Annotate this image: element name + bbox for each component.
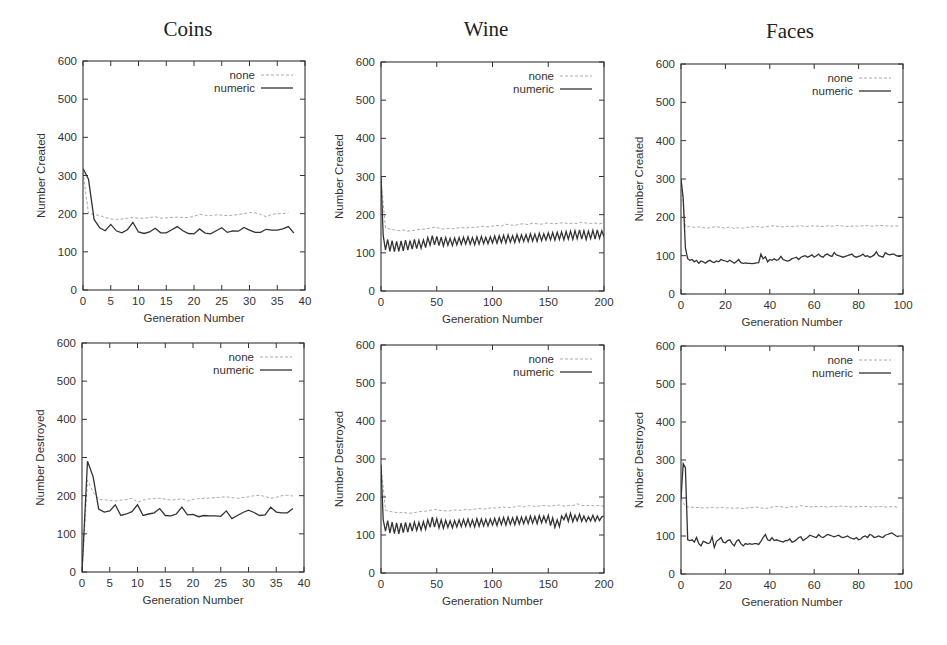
y-tick-label: 0: [369, 285, 375, 297]
x-axis-label: Generation Number: [144, 312, 245, 324]
y-tick-label: 200: [656, 492, 675, 504]
figure: Coins Wine Faces 01002003004005006000510…: [0, 0, 947, 645]
y-tick-label: 600: [57, 337, 76, 349]
x-tick-label: 0: [678, 579, 684, 591]
y-tick-label: 200: [356, 209, 375, 221]
y-tick-label: 200: [57, 490, 76, 502]
x-axis-label: Generation Number: [143, 594, 244, 606]
plot-frame: [381, 345, 604, 573]
y-tick-label: 500: [58, 93, 77, 105]
x-tick-label: 20: [719, 579, 732, 591]
y-tick-label: 400: [656, 416, 675, 428]
legend-label-numeric: numeric: [513, 366, 554, 378]
series-numeric: [381, 465, 604, 534]
x-axis-label: Generation Number: [742, 316, 843, 328]
y-tick-label: 600: [356, 56, 375, 68]
y-tick-label: 300: [356, 453, 375, 465]
chart-coins-destroyed: 01002003004005006000510152025303540Gener…: [34, 337, 310, 606]
series-none: [381, 465, 604, 514]
x-tick-label: 0: [80, 295, 86, 307]
y-tick-label: 500: [656, 378, 675, 390]
y-tick-label: 300: [356, 171, 375, 183]
y-tick-label: 100: [356, 529, 375, 541]
y-tick-label: 200: [58, 208, 77, 220]
chart-coins-created: 01002003004005006000510152025303540Gener…: [35, 55, 311, 324]
y-tick-label: 0: [70, 566, 76, 578]
x-tick-label: 150: [539, 578, 558, 590]
y-tick-label: 400: [356, 132, 375, 144]
legend-label-numeric: numeric: [812, 85, 853, 97]
series-none: [681, 179, 899, 228]
x-tick-label: 25: [214, 577, 227, 589]
legend: nonenumeric: [513, 70, 592, 95]
legend: nonenumeric: [214, 69, 293, 94]
y-tick-label: 400: [356, 415, 375, 427]
legend-label-numeric: numeric: [213, 364, 254, 376]
x-tick-label: 20: [187, 577, 200, 589]
plot-frame: [681, 346, 903, 574]
legend: nonenumeric: [812, 72, 891, 97]
chart-faces-created: 0100200300400500600020406080100Generatio…: [633, 58, 913, 328]
series-none: [83, 172, 288, 220]
x-tick-label: 200: [594, 578, 613, 590]
series-none: [681, 498, 899, 509]
x-tick-label: 15: [160, 295, 173, 307]
x-tick-label: 80: [852, 299, 865, 311]
chart-faces-destroyed: 0100200300400500600020406080100Generatio…: [633, 340, 913, 608]
x-tick-label: 30: [243, 295, 256, 307]
series-numeric: [681, 179, 901, 264]
y-axis-label: Number Created: [333, 134, 345, 219]
legend-label-none: none: [528, 353, 554, 365]
x-tick-label: 40: [763, 579, 776, 591]
x-axis-label: Generation Number: [742, 596, 843, 608]
legend-label-numeric: numeric: [214, 82, 255, 94]
plot-frame: [381, 62, 604, 291]
x-tick-label: 60: [808, 579, 821, 591]
y-tick-label: 600: [356, 339, 375, 351]
series-none: [381, 180, 604, 231]
x-tick-label: 100: [893, 299, 912, 311]
x-tick-label: 20: [188, 295, 201, 307]
y-tick-label: 0: [369, 567, 375, 579]
legend: nonenumeric: [812, 354, 891, 379]
y-tick-label: 500: [356, 94, 375, 106]
x-axis-label: Generation Number: [442, 595, 543, 607]
chart-wine-created: 0100200300400500600050100150200Generatio…: [333, 56, 614, 325]
x-tick-label: 0: [378, 296, 384, 308]
x-tick-label: 0: [79, 577, 85, 589]
legend-label-none: none: [228, 351, 254, 363]
legend-label-none: none: [229, 69, 255, 81]
series-numeric: [681, 464, 899, 548]
x-tick-label: 10: [131, 577, 144, 589]
legend-label-none: none: [528, 70, 554, 82]
series-numeric: [83, 169, 294, 234]
y-tick-label: 300: [57, 452, 76, 464]
y-tick-label: 500: [656, 96, 675, 108]
y-tick-label: 0: [669, 288, 675, 300]
legend-label-numeric: numeric: [812, 367, 853, 379]
y-tick-label: 400: [57, 413, 76, 425]
y-tick-label: 300: [58, 170, 77, 182]
x-tick-label: 40: [298, 577, 311, 589]
y-tick-label: 100: [57, 528, 76, 540]
y-tick-label: 0: [71, 284, 77, 296]
x-tick-label: 5: [107, 577, 113, 589]
x-tick-label: 80: [852, 579, 865, 591]
y-tick-label: 400: [656, 135, 675, 147]
plots-canvas: 01002003004005006000510152025303540Gener…: [0, 0, 947, 645]
chart-wine-destroyed: 0100200300400500600050100150200Generatio…: [333, 339, 614, 607]
x-tick-label: 10: [132, 295, 145, 307]
x-tick-label: 100: [483, 578, 502, 590]
plot-frame: [82, 343, 304, 572]
y-axis-label: Number Created: [633, 136, 645, 221]
x-tick-label: 100: [893, 579, 912, 591]
y-axis-label: Number Created: [35, 133, 47, 218]
series-none: [82, 480, 293, 572]
y-tick-label: 100: [656, 250, 675, 262]
x-tick-label: 0: [678, 299, 684, 311]
y-tick-label: 0: [669, 568, 675, 580]
y-tick-label: 600: [656, 340, 675, 352]
y-tick-label: 100: [656, 530, 675, 542]
y-tick-label: 200: [356, 491, 375, 503]
x-tick-label: 35: [271, 295, 284, 307]
